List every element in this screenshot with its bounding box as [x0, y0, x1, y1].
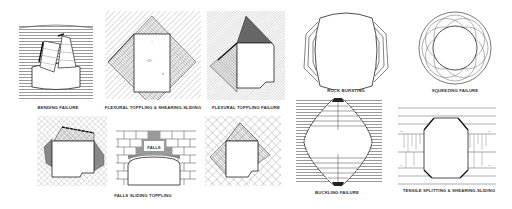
tensile-splitting-illustration: — — — —: [390, 100, 512, 186]
bending-failure-illustration: [18, 22, 100, 102]
flexural-toppling-shearing-illustration: ~O ~ s: [104, 10, 202, 100]
label-squeezing-failure: SQUEEZING FAILURE: [420, 88, 490, 93]
panel-buckling-failure: BUCKLING FAILURE: [292, 96, 388, 188]
panel-flexural-toppling-shearing: ~O ~ s FLEXURAL TOPPLING & SHEARING-SLID…: [104, 10, 202, 100]
rock-bursting-illustration: [296, 10, 396, 90]
falls-illustration: [36, 115, 108, 187]
panel-falls: [36, 115, 108, 187]
falls-inner-label: FALLS: [147, 145, 160, 150]
toppling-illustration: [204, 115, 282, 187]
panel-tensile-splitting: — — — — TENSILE SPLITTING & SHEARING-SLI…: [390, 100, 512, 186]
panel-toppling: [204, 115, 282, 187]
panel-bending-failure: BENDING FAILURE: [18, 22, 100, 102]
panel-flexural-toppling-failure: FLEXURAL TOPPLING FAILURE: [206, 10, 286, 100]
panel-squeezing-failure: SQUEEZING FAILURE: [410, 4, 500, 90]
label-tensile-splitting: TENSILE SPLITTING & SHEARING-SLIDING: [390, 188, 508, 193]
svg-text:—: —: [400, 129, 403, 133]
svg-text:—: —: [488, 163, 491, 167]
svg-text:—: —: [488, 129, 491, 133]
svg-text:s: s: [162, 72, 164, 76]
panel-rock-bursting: ROCK BURSTING: [296, 10, 396, 90]
svg-text:~O: ~O: [146, 58, 151, 63]
label-buckling-failure: BUCKLING FAILURE: [302, 190, 372, 195]
panel-falls-brick-arch: FALLS FALLS SLIDING TOPPLING: [114, 129, 198, 187]
label-flexural-toppling-failure: FLEXURAL TOPPLING FAILURE: [201, 105, 291, 110]
label-rock-bursting: ROCK BURSTING: [311, 88, 381, 93]
svg-text:~: ~: [151, 40, 153, 44]
flexural-toppling-illustration: [206, 10, 286, 100]
svg-text:—: —: [400, 163, 403, 167]
squeezing-illustration: [410, 4, 500, 90]
buckling-illustration: [292, 96, 388, 188]
label-bending-failure: BENDING FAILURE: [28, 105, 88, 110]
brick-arch-illustration: FALLS: [114, 129, 198, 187]
label-falls-sliding-toppling: FALLS SLIDING TOPPLING: [108, 193, 178, 198]
label-flexural-toppling-shearing: FLEXURAL TOPPLING & SHEARING-SLIDING: [104, 105, 202, 110]
